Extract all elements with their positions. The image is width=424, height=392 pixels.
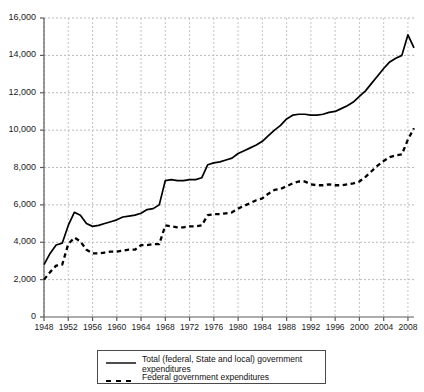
chart-plot-area bbox=[0, 0, 424, 392]
y-tick-label: 0 bbox=[0, 312, 36, 321]
y-tick-label: 2,000 bbox=[0, 275, 36, 284]
legend-entry-federal: Federal government expenditures bbox=[104, 372, 269, 382]
chart-legend: Total (federal, State and local) governm… bbox=[97, 350, 326, 384]
series-line-federal bbox=[44, 128, 414, 279]
chart-container: 02,0004,0006,0008,00010,00012,00014,0001… bbox=[0, 0, 424, 392]
y-tick-label: 8,000 bbox=[0, 163, 36, 172]
legend-swatch-dashed-line bbox=[104, 372, 138, 382]
legend-label-total: Total (federal, State and local) governm… bbox=[142, 354, 302, 374]
y-tick-label: 12,000 bbox=[0, 88, 36, 97]
y-tick-label: 16,000 bbox=[0, 13, 36, 22]
y-tick-label: 6,000 bbox=[0, 200, 36, 209]
y-tick-label: 4,000 bbox=[0, 237, 36, 246]
y-tick-label: 14,000 bbox=[0, 50, 36, 59]
y-tick-label: 10,000 bbox=[0, 125, 36, 134]
legend-label-federal: Federal government expenditures bbox=[142, 372, 269, 382]
legend-swatch-solid-line bbox=[104, 354, 138, 364]
legend-entry-total: Total (federal, State and local) governm… bbox=[104, 354, 302, 374]
series-line-total bbox=[44, 35, 414, 265]
x-tick-label: 2008 bbox=[392, 323, 424, 332]
